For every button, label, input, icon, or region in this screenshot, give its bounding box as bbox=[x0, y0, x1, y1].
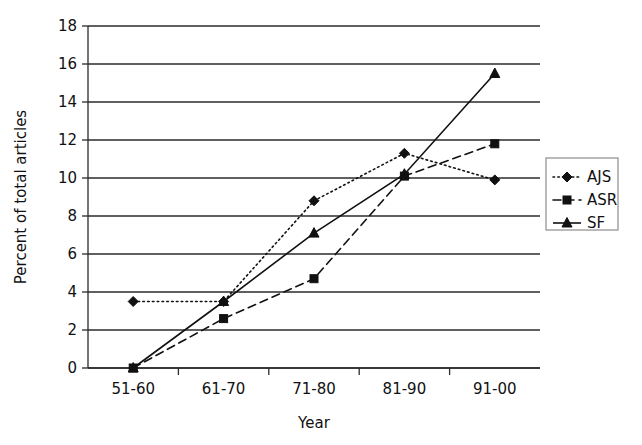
series-plot-area bbox=[128, 68, 500, 372]
y-tick-label: 4 bbox=[67, 283, 77, 301]
legend-label-asr: ASR bbox=[587, 191, 617, 209]
y-tick-label: 2 bbox=[67, 321, 77, 339]
y-tick-label: 10 bbox=[58, 169, 77, 187]
x-tick-marks bbox=[178, 368, 449, 375]
data-point-asr-91-00 bbox=[491, 140, 499, 148]
data-point-ajs-81-90 bbox=[399, 148, 409, 158]
y-axis-title: Percent of total articles bbox=[12, 110, 30, 285]
y-tick-labels: 024681012141618 bbox=[58, 17, 77, 377]
series-asr bbox=[129, 140, 499, 372]
y-tick-label: 18 bbox=[58, 17, 77, 35]
data-point-sf-91-00 bbox=[490, 68, 500, 78]
x-tick-label: 51-60 bbox=[111, 380, 155, 398]
data-point-asr-71-80 bbox=[310, 275, 318, 283]
x-tick-labels: 51-6061-7071-8081-9091-00 bbox=[111, 380, 516, 398]
y-tick-label: 0 bbox=[67, 359, 77, 377]
y-tick-label: 12 bbox=[58, 131, 77, 149]
legend-label-ajs: AJS bbox=[587, 168, 611, 186]
y-tick-label: 16 bbox=[58, 55, 77, 73]
x-tick-label: 81-90 bbox=[383, 380, 427, 398]
line-chart: 024681012141618 51-6061-7071-8081-9091-0… bbox=[0, 0, 642, 445]
y-tick-label: 6 bbox=[67, 245, 77, 263]
series-line-sf bbox=[133, 74, 495, 369]
data-point-asr-61-70 bbox=[220, 315, 228, 323]
data-point-ajs-91-00 bbox=[490, 175, 500, 185]
y-tick-label: 14 bbox=[58, 93, 77, 111]
legend: AJSASRSF bbox=[546, 158, 618, 232]
x-tick-label: 61-70 bbox=[202, 380, 246, 398]
y-tick-label: 8 bbox=[67, 207, 77, 225]
x-axis-title: Year bbox=[297, 414, 331, 432]
x-tick-label: 71-80 bbox=[292, 380, 336, 398]
data-point-sf-71-80 bbox=[309, 228, 319, 238]
legend-label-sf: SF bbox=[587, 214, 605, 232]
chart-svg: 024681012141618 51-6061-7071-8081-9091-0… bbox=[0, 0, 642, 445]
y-tick-marks bbox=[82, 26, 88, 368]
x-tick-label: 91-00 bbox=[473, 380, 517, 398]
data-point-ajs-51-60 bbox=[128, 297, 138, 307]
series-sf bbox=[128, 68, 500, 372]
legend-marker-asr bbox=[563, 196, 571, 204]
